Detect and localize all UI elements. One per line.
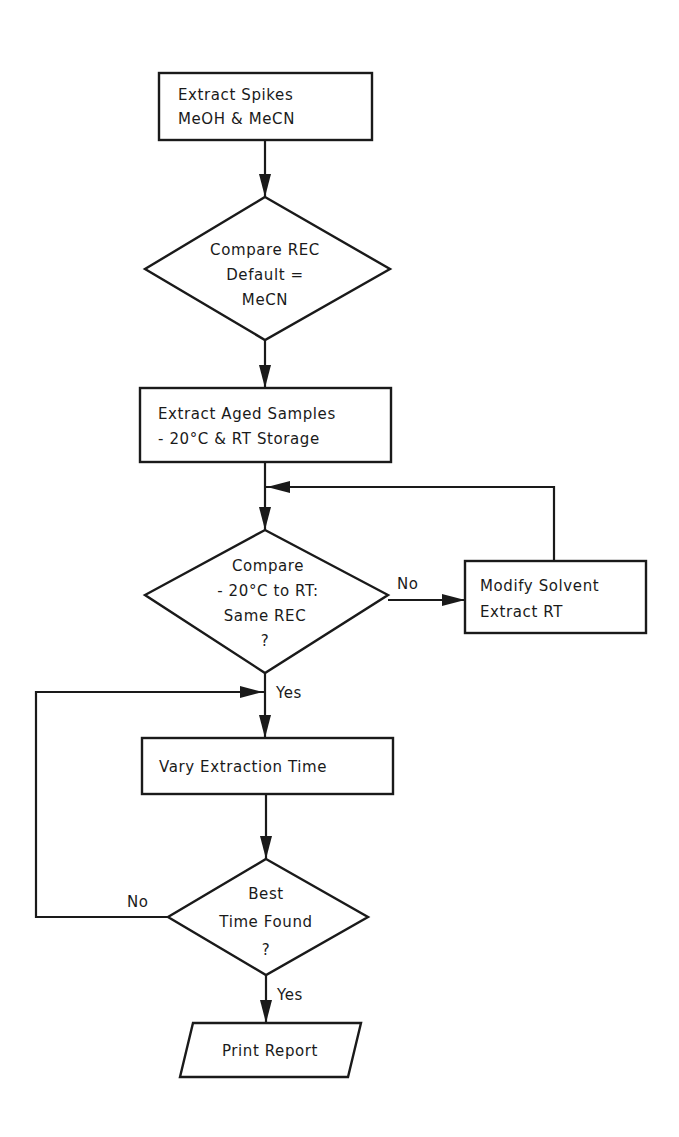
node-text-line: - 20°C & RT Storage (158, 430, 320, 448)
node-best-time-found: Best Time Found ? (168, 859, 368, 975)
node-vary-extraction-time: Vary Extraction Time (142, 738, 393, 794)
edge-label-no: No (127, 893, 149, 911)
node-text-line: Extract RT (480, 603, 563, 621)
node-text-line: MeOH & MeCN (178, 110, 295, 128)
edge-label-yes: Yes (276, 986, 303, 1004)
arrowhead-icon (259, 507, 271, 530)
process-box (159, 73, 372, 140)
node-text-line: Extract Spikes (178, 86, 293, 104)
node-print-report: Print Report (180, 1023, 361, 1077)
edge-spikes-to-compare (259, 140, 271, 197)
node-text-line: Same REC (224, 607, 307, 625)
edge-compare-temps-yes: Yes (259, 673, 302, 738)
decision-diamond (145, 530, 388, 673)
arrowhead-icon (240, 686, 263, 698)
node-text-line: ? (261, 632, 270, 650)
edge-label-yes: Yes (275, 684, 302, 702)
node-text-line: MeCN (242, 291, 288, 309)
flowchart: Extract Spikes MeOH & MeCN Compare REC D… (0, 0, 679, 1137)
node-text-line: Extract Aged Samples (158, 405, 336, 423)
arrowhead-icon (267, 481, 290, 493)
arrowhead-icon (260, 836, 272, 859)
arrowhead-icon (259, 174, 271, 197)
node-extract-aged-samples: Extract Aged Samples - 20°C & RT Storage (140, 388, 391, 462)
node-extract-spikes: Extract Spikes MeOH & MeCN (159, 73, 372, 140)
node-text-line: Vary Extraction Time (159, 758, 327, 776)
node-text-line: Compare (232, 557, 304, 575)
edge-modify-solvent-loop-back (265, 481, 554, 561)
node-text-line: Time Found (218, 913, 312, 931)
node-text-line: Modify Solvent (480, 577, 599, 595)
node-text-line: Best (248, 885, 284, 903)
node-compare-temperatures: Compare - 20°C to RT: Same REC ? (145, 530, 388, 673)
node-text-line: Default = (226, 266, 304, 284)
node-text-line: - 20°C to RT: (217, 582, 319, 600)
process-box (140, 388, 391, 462)
arrowhead-icon (259, 715, 271, 738)
node-text-line: Print Report (222, 1042, 318, 1060)
arrowhead-icon (260, 1000, 272, 1023)
edge-extract-aged-to-compare-temps (259, 462, 271, 530)
node-text-line: Compare REC (210, 241, 320, 259)
edge-label-no: No (397, 575, 419, 593)
node-text-line: ? (262, 941, 271, 959)
edge-compare-temps-no: No (388, 575, 465, 606)
edge-vary-to-best-time (260, 794, 272, 859)
node-compare-rec-default: Compare REC Default = MeCN (145, 197, 390, 340)
process-box (465, 561, 646, 633)
arrowhead-icon (442, 594, 465, 606)
edge-best-time-yes: Yes (260, 975, 303, 1023)
edge-compare-to-extract-aged (259, 340, 271, 388)
arrowhead-icon (259, 365, 271, 388)
node-modify-solvent: Modify Solvent Extract RT (465, 561, 646, 633)
